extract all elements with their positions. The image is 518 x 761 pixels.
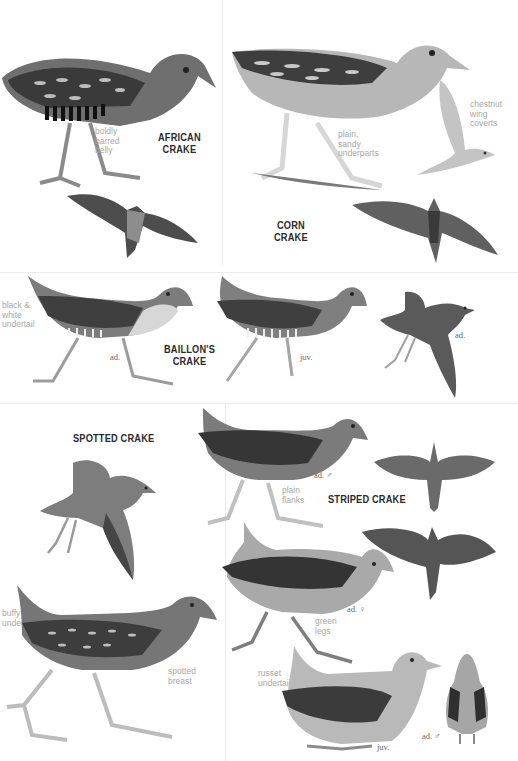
- striped-crake-rear-label: ad. ♂: [422, 731, 441, 741]
- corn-crake-flight-top-illustration: [350, 193, 500, 263]
- spotted-crake-title: SPOTTED CRAKE: [73, 432, 154, 444]
- african-crake-flight-illustration: [65, 188, 200, 263]
- baillons-crake-title: BAILLON'SCRAKE: [164, 343, 215, 367]
- striped-crake-note-legs: greenlegs: [315, 617, 337, 636]
- striped-crake-flight-upper-illustration: [372, 440, 497, 512]
- corn-crake-note-wing: chestnutwingcoverts: [470, 100, 502, 129]
- striped-crake-note-flanks: plainflanks: [282, 486, 304, 505]
- african-crake-standing-illustration: [0, 28, 220, 188]
- baillons-crake-flight-illustration: [380, 290, 480, 400]
- striped-crake-female-label: ad. ♀: [347, 604, 366, 614]
- striped-crake-rear-illustration: [442, 652, 492, 747]
- corn-crake-title: CORNCRAKE: [274, 219, 308, 243]
- divider-horizontal-2: [0, 403, 518, 404]
- baillons-crake-adult-label: ad.: [110, 352, 120, 362]
- african-crake-note: boldlybarredbelly: [95, 127, 120, 156]
- baillons-crake-flight-label: ad.: [455, 330, 465, 340]
- spotted-crake-standing-illustration: [2, 585, 222, 745]
- striped-crake-male-label: ad. ♂: [314, 470, 333, 480]
- corn-crake-note-underparts: plain,sandyunderparts: [338, 130, 379, 159]
- baillons-crake-juvenile-illustration: [212, 276, 372, 391]
- divider-horizontal-1: [0, 272, 518, 273]
- baillons-crake-adult-illustration: [28, 276, 198, 391]
- baillons-crake-juvenile-label: juv.: [300, 352, 312, 362]
- striped-crake-juvenile-label: juv.: [377, 742, 389, 752]
- african-crake-title: AFRICANCRAKE: [158, 131, 201, 155]
- spotted-crake-note-breast: spottedbreast: [168, 667, 196, 686]
- striped-crake-male-illustration: [198, 408, 373, 533]
- divider-vertical-top: [222, 0, 223, 265]
- spotted-crake-flight-illustration: [38, 458, 163, 583]
